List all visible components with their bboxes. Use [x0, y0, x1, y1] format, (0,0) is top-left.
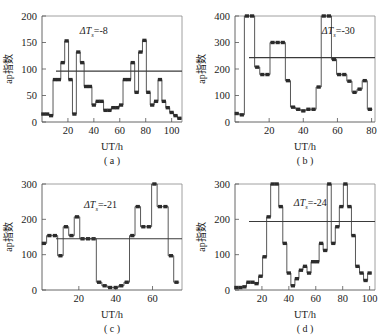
data-point-marker [270, 41, 274, 44]
data-point-marker [250, 281, 254, 284]
data-point-marker [343, 182, 347, 185]
data-point-marker [299, 269, 303, 272]
data-point-marker [246, 281, 250, 284]
data-point-marker [301, 109, 305, 112]
data-point-marker [103, 109, 107, 112]
data-point-marker [283, 242, 287, 245]
data-point-marker [80, 61, 84, 64]
y-tick-label: 200 [21, 214, 37, 225]
data-point-marker [96, 100, 100, 103]
panel-caption: ( c ) [104, 323, 120, 335]
data-point-marker [108, 286, 112, 289]
panel-caption: ( b ) [297, 155, 314, 167]
data-point-marker [75, 215, 79, 218]
data-point-marker [319, 242, 323, 245]
data-point-marker [61, 61, 65, 64]
data-point-marker [138, 50, 142, 53]
x-axis-title: UT/h [101, 141, 124, 152]
data-point-marker [265, 73, 269, 76]
data-point-marker [234, 286, 238, 289]
data-point-marker [42, 242, 46, 245]
x-tick-label: 60 [332, 125, 343, 136]
data-point-marker [286, 79, 290, 82]
data-point-marker [238, 286, 242, 289]
data-point-marker [166, 106, 170, 109]
data-point-marker [347, 205, 351, 208]
delta-ts-annotation: ΔTs=-21 [83, 199, 117, 212]
data-point-marker [107, 109, 111, 112]
data-point-marker [359, 271, 363, 274]
data-point-marker [306, 108, 310, 111]
delta-ts-annotation: ΔTs=-30 [321, 25, 355, 38]
panel-caption: ( a ) [104, 155, 120, 167]
y-tick-label: 100 [214, 249, 230, 260]
y-tick-label: 0 [225, 117, 230, 128]
data-point-marker [296, 108, 300, 111]
x-tick-label: 20 [264, 125, 275, 136]
data-point-marker [142, 39, 146, 42]
y-tick-label: 100 [21, 249, 37, 260]
data-point-marker [352, 91, 356, 94]
y-tick-label: 0 [225, 285, 230, 296]
data-point-marker [363, 279, 367, 282]
y-tick-label: 100 [214, 90, 230, 101]
x-tick-label: 60 [147, 293, 158, 304]
data-point-marker [339, 205, 343, 208]
data-point-marker [281, 41, 285, 44]
x-tick-label: 100 [164, 125, 180, 136]
data-point-marker [141, 225, 145, 228]
data-point-marker [100, 100, 104, 103]
data-point-marker [41, 112, 45, 115]
data-point-marker [235, 112, 239, 115]
x-tick-label: 80 [366, 125, 377, 136]
data-point-marker [240, 113, 244, 116]
data-point-marker [65, 39, 69, 42]
data-point-marker [307, 271, 311, 274]
x-tick-label: 80 [337, 293, 348, 304]
data-point-marker [158, 205, 162, 208]
data-point-marker [123, 78, 127, 81]
y-tick-label: 200 [214, 214, 230, 225]
data-point-marker [170, 111, 174, 114]
data-point-marker [279, 205, 283, 208]
data-point-marker [49, 114, 53, 117]
data-point-marker [158, 78, 162, 81]
data-point-marker [263, 255, 267, 258]
data-point-marker [355, 265, 359, 268]
data-point-marker [53, 234, 57, 237]
data-point-marker [127, 78, 131, 81]
y-tick-label: 200 [214, 64, 230, 75]
x-tick-label: 80 [140, 125, 151, 136]
y-tick-label: 300 [21, 179, 37, 190]
x-tick-label: 40 [284, 293, 295, 304]
ap-index-figure: 05010015020020406080100ΔTs=-8UT/hap指数( a… [0, 0, 385, 336]
data-point-marker [130, 234, 134, 237]
data-point-marker [68, 78, 72, 81]
data-point-marker [72, 112, 76, 115]
data-point-marker [111, 106, 115, 109]
data-point-marker [115, 106, 119, 109]
y-tick-label: 150 [21, 37, 37, 48]
data-point-marker [119, 103, 123, 106]
data-point-marker [245, 14, 249, 17]
x-tick-label: 40 [89, 125, 100, 136]
data-point-marker [177, 117, 181, 120]
data-point-marker [303, 265, 307, 268]
data-point-marker [103, 284, 107, 287]
data-point-marker [331, 242, 335, 245]
y-axis-title: ap指数 [2, 222, 14, 251]
x-tick-label: 60 [311, 293, 322, 304]
data-point-marker [322, 14, 326, 17]
data-point-marker [258, 275, 262, 278]
data-point-marker [147, 225, 151, 228]
data-point-marker [135, 91, 139, 94]
data-point-marker [57, 78, 61, 81]
data-point-marker [152, 182, 156, 185]
y-axis-title: ap指数 [2, 54, 14, 83]
panel-a: 05010015020020406080100ΔTs=-8UT/hap指数( a… [0, 0, 192, 168]
x-tick-label: 20 [63, 125, 74, 136]
data-point-marker [315, 260, 319, 263]
x-tick-label: 100 [362, 293, 378, 304]
x-tick-label: 20 [257, 293, 268, 304]
panel-b: 010020030040020406080ΔTs=-30UT/hap指数( b … [193, 0, 385, 168]
